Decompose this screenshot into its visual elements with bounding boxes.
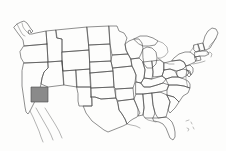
map-svg-canvas	[0, 0, 226, 151]
us-state-locator-map	[0, 0, 226, 151]
highlighted-state-group	[31, 87, 48, 102]
state-arizona-highlighted	[31, 87, 48, 102]
